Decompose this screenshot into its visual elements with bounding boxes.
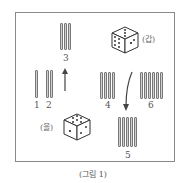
stick-bundle-2 <box>46 70 53 98</box>
stick-bundle-3 <box>60 23 71 50</box>
bundle-label-1: 1 <box>34 101 40 110</box>
stick-bundle-1 <box>35 70 38 98</box>
stick-bundle-6 <box>140 72 163 99</box>
stick-bundle-4 <box>100 72 115 99</box>
arrow-down-curved-icon <box>120 70 136 112</box>
bundle-label-5: 5 <box>125 151 131 160</box>
figure-caption: (그림 1) <box>0 168 186 179</box>
die-label-gap: (갑) <box>142 36 155 44</box>
bundle-label-3: 3 <box>63 54 69 63</box>
die-icon-eul <box>62 112 92 142</box>
bundle-label-6: 6 <box>148 101 154 110</box>
die-label-eul: (을) <box>40 124 53 132</box>
bundle-label-2: 2 <box>46 101 52 110</box>
stick-bundle-5 <box>118 117 137 147</box>
arrow-up-icon <box>60 68 70 92</box>
bundle-label-4: 4 <box>105 101 111 110</box>
die-icon-gap <box>110 25 140 55</box>
